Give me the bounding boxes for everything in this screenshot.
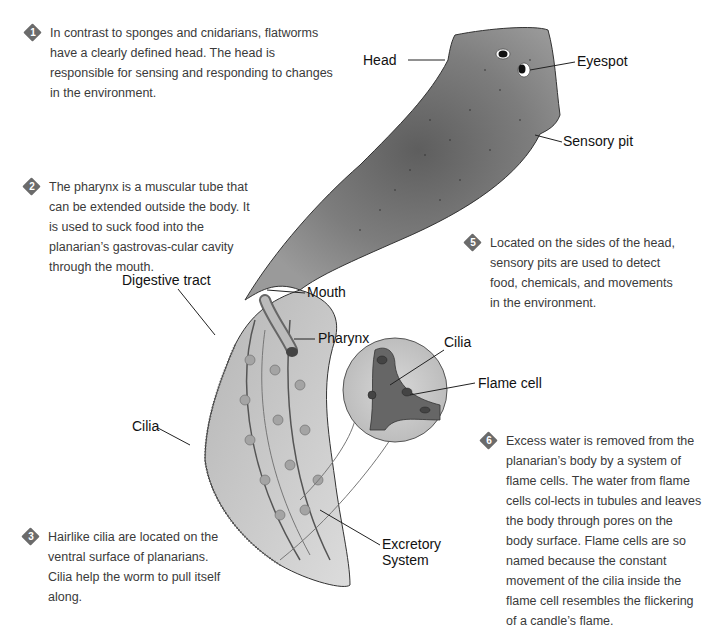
label-eyespot: Eyespot	[577, 53, 628, 69]
note-6: 6 Excess water is removed from the plana…	[506, 431, 702, 625]
note-1-text: In contrast to sponges and cnidarians, f…	[50, 26, 333, 100]
label-excretory-line1: Excretory	[382, 536, 441, 552]
badge-2-icon: 2	[23, 178, 41, 196]
badge-3-icon: 3	[22, 528, 40, 546]
note-1: 1 In contrast to sponges and cnidarians,…	[50, 23, 340, 103]
badge-6-icon: 6	[480, 432, 498, 450]
note-5: 5 Located on the sides of the head, sens…	[490, 233, 680, 313]
label-pharynx: Pharynx	[318, 330, 369, 346]
badge-5-icon: 5	[464, 234, 482, 252]
note-3: 3 Hairlike cilia are located on the vent…	[48, 527, 223, 607]
label-excretory-system: Excretory System	[382, 536, 441, 568]
badge-1-icon: 1	[24, 24, 42, 42]
label-cilia-inset: Cilia	[444, 334, 471, 350]
label-sensory-pit: Sensory pit	[563, 133, 633, 149]
label-cilia-body: Cilia	[132, 418, 159, 434]
note-6-text: Excess water is removed from the planari…	[506, 434, 701, 625]
label-excretory-line2: System	[382, 552, 441, 568]
note-3-text: Hairlike cilia are located on the ventra…	[48, 530, 220, 604]
label-head: Head	[363, 52, 396, 68]
note-5-text: Located on the sides of the head, sensor…	[490, 236, 675, 310]
note-2: 2 The pharynx is a muscular tube that ca…	[49, 177, 259, 277]
label-flame-cell: Flame cell	[478, 375, 542, 391]
note-2-text: The pharynx is a muscular tube that can …	[49, 180, 250, 274]
label-mouth: Mouth	[307, 284, 346, 300]
